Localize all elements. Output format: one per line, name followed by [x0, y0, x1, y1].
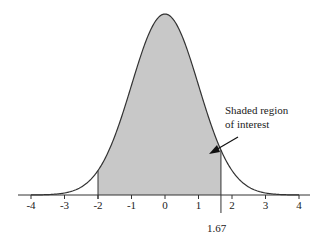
x-tick-label: -3 [60, 199, 69, 211]
x-tick-label: 3 [263, 199, 269, 211]
annotation-line1: Shaded region [225, 104, 288, 116]
x-tick-label: 1 [196, 199, 202, 211]
x-tick-label: -1 [127, 199, 136, 211]
marker-label: 1.67 [207, 222, 226, 234]
x-tick-label: -4 [26, 199, 35, 211]
x-tick-label: 4 [296, 199, 302, 211]
x-tick-label: 0 [162, 199, 168, 211]
x-tick-label: -2 [93, 199, 102, 211]
x-tick-label: 2 [229, 199, 235, 211]
shaded-region [98, 14, 221, 195]
annotation-line2: of interest [225, 118, 269, 130]
